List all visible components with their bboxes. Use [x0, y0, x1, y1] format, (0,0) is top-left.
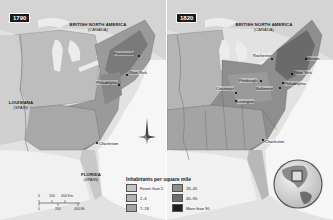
- year-badge: 1790: [9, 13, 30, 23]
- legend-item: Fewer than 2: [126, 184, 172, 192]
- city-label: Charleston: [265, 139, 284, 144]
- city-label: New York: [295, 70, 312, 75]
- city-label: Rochester: [253, 53, 271, 58]
- legend: Inhabitants per square mile Fewer than 2…: [126, 176, 218, 216]
- city-marker: [271, 58, 273, 60]
- city-marker: [235, 100, 237, 102]
- legend-item: 7–18: [126, 204, 172, 212]
- year-badge: 1820: [176, 13, 197, 23]
- legend-swatch: [126, 184, 137, 192]
- legend-item: 2–6: [126, 194, 172, 202]
- city-marker: [279, 87, 281, 89]
- region-label-florida: FLORIDA (SPAIN): [76, 172, 106, 182]
- globe-locator: [272, 158, 324, 210]
- legend-title: Inhabitants per square mile: [126, 176, 218, 182]
- scale-mi-0: 0: [38, 207, 40, 211]
- city-label: Lexington: [237, 99, 254, 104]
- legend-label: 2–6: [140, 196, 147, 201]
- compass-icon: [136, 116, 158, 146]
- city-marker: [118, 84, 120, 86]
- city-label: Cincinnati: [216, 86, 234, 91]
- legend-item: 46–90: [172, 194, 218, 202]
- city-label: New York: [130, 70, 147, 75]
- city-label: Philadelphia: [96, 80, 118, 85]
- legend-items: Fewer than 2 18–45 2–6 46–90 7–18 More t…: [126, 184, 218, 212]
- legend-item: More than 90: [172, 204, 218, 212]
- city-label: Portsmouth: [114, 51, 134, 56]
- city-marker: [305, 58, 307, 60]
- city-label: Pittsburgh: [239, 78, 257, 83]
- city-marker: [282, 82, 284, 84]
- legend-label: Fewer than 2: [140, 186, 163, 191]
- city-marker: [262, 139, 264, 141]
- scale-km-0: 0: [38, 194, 40, 198]
- legend-swatch: [172, 204, 183, 212]
- scale-km-200: 200: [49, 194, 55, 198]
- scale-mi-400: 400 Mi: [74, 207, 85, 211]
- city-marker: [235, 92, 237, 94]
- globe-icon: [272, 158, 324, 210]
- legend-swatch: [126, 204, 137, 212]
- region-label-canada: BRITISH NORTH AMERICA (CANADA): [68, 22, 128, 32]
- region-label-louisiana: LOUISIANA (SPAIN): [3, 100, 39, 110]
- legend-swatch: [172, 194, 183, 202]
- legend-label: 7–18: [140, 206, 149, 211]
- scale-km-400: 400 Km: [61, 194, 73, 198]
- legend-label: 46–90: [186, 196, 197, 201]
- city-marker: [138, 55, 140, 57]
- compass-rose: [136, 116, 158, 146]
- city-label: Charleston: [99, 141, 118, 146]
- legend-swatch: [172, 184, 183, 192]
- legend-swatch: [126, 194, 137, 202]
- city-label: Boston: [307, 56, 319, 61]
- city-marker: [291, 73, 293, 75]
- city-marker: [126, 74, 128, 76]
- city-marker: [260, 80, 262, 82]
- scale-mi-200: 200: [55, 207, 61, 211]
- city-label: Philadelphia: [284, 81, 306, 86]
- region-label-canada: BRITISH NORTH AMERICA (CANADA): [233, 22, 295, 32]
- legend-label: More than 90: [186, 206, 210, 211]
- city-label: Baltimore: [256, 86, 273, 91]
- city-marker: [96, 142, 98, 144]
- legend-label: 18–45: [186, 186, 197, 191]
- scale-bar: 0 200 400 Km 0 200 400 Mi: [38, 193, 83, 213]
- legend-item: 18–45: [172, 184, 218, 192]
